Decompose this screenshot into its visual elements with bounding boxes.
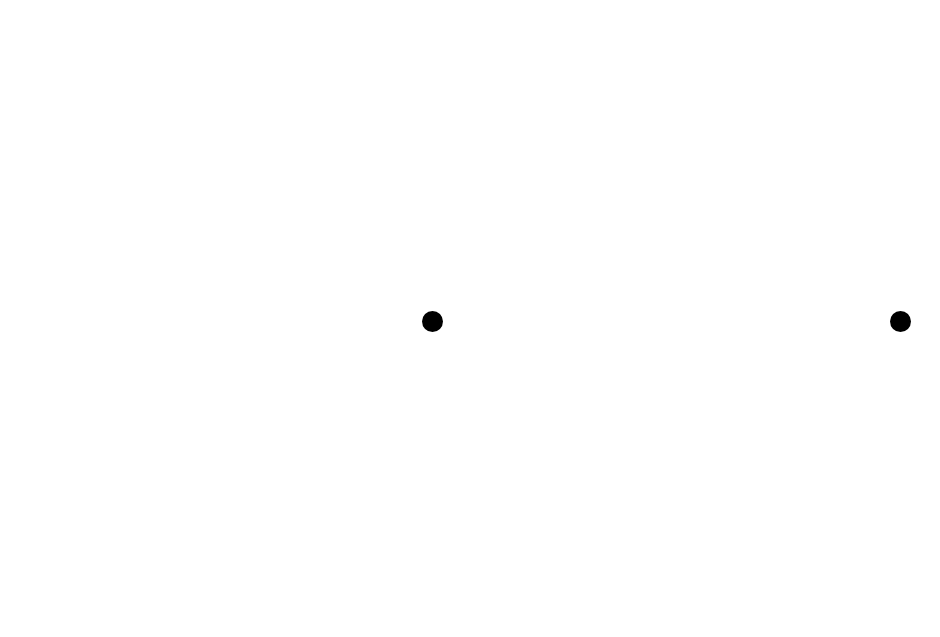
dot-right — [890, 311, 911, 332]
blank-canvas — [0, 0, 940, 637]
dot-left — [422, 311, 443, 332]
